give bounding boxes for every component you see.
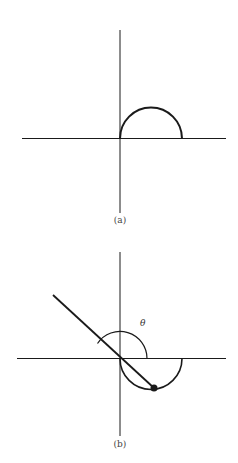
figure-a-upper-semicircle	[120, 108, 182, 139]
figure-b-diagonal-line	[53, 295, 154, 388]
figure-b-intersection-point	[151, 385, 158, 392]
figure-b-angle-arc	[98, 331, 148, 358]
figure-canvas	[0, 0, 238, 463]
figure-b-caption: (b)	[114, 439, 127, 449]
figure-a-caption: (a)	[114, 215, 126, 225]
figure-a	[22, 30, 226, 213]
theta-label: θ	[140, 318, 145, 328]
figure-b	[17, 252, 226, 436]
